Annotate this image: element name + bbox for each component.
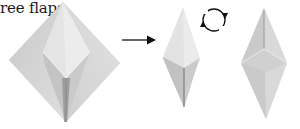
turn-over-icon (198, 8, 229, 32)
step-a-diamond (9, 2, 120, 122)
step-c-result-kite (241, 8, 287, 119)
right-arrow-icon (122, 36, 156, 45)
origami-diagram: ree flaps. (0, 0, 300, 129)
step-b-narrow-kite (163, 8, 200, 107)
